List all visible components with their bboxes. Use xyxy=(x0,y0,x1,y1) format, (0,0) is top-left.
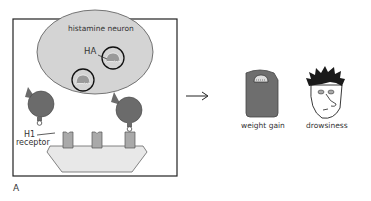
neuron-label: histamine neuron xyxy=(68,24,134,33)
bathroom-scale-icon xyxy=(246,70,278,117)
effect-label-drowsiness: drowsiness xyxy=(306,121,348,130)
vesicle xyxy=(72,69,94,91)
diagram-canvas xyxy=(0,0,371,201)
effect-label-weight-gain: weight gain xyxy=(241,121,285,130)
panel-label: A xyxy=(13,183,19,193)
receptor-label-line2: receptor xyxy=(16,138,50,147)
arrow-icon xyxy=(186,92,208,100)
vesicle-label: HA xyxy=(84,46,96,56)
cell-membrane xyxy=(47,146,147,172)
h1-receptor xyxy=(63,132,73,148)
h1-receptor-bound xyxy=(125,132,135,148)
drowsy-face-icon xyxy=(306,66,345,118)
h1-receptor xyxy=(92,132,102,148)
